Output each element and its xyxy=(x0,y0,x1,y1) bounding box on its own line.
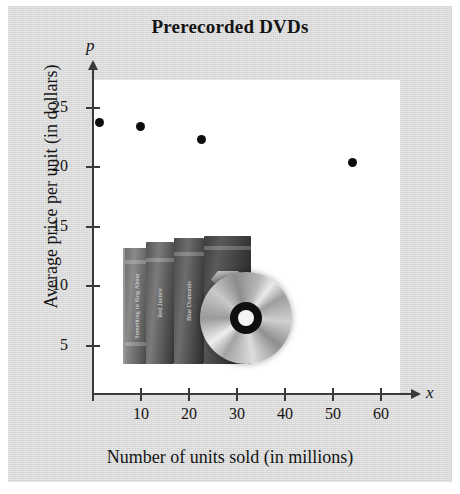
x-axis-tick xyxy=(380,388,382,401)
dvd-case: Something to Sing About xyxy=(123,248,148,364)
dvd-photo-inset: Something to Sing About Red Justice Blue… xyxy=(115,225,275,370)
x-axis-tick xyxy=(236,388,238,401)
y-axis-tick xyxy=(86,107,100,109)
y-axis-tick xyxy=(86,285,100,287)
x-axis-tick-label: 20 xyxy=(173,405,205,423)
y-axis-title: Average price per unit (in dollars) xyxy=(41,32,62,342)
data-point xyxy=(348,158,357,167)
dvd-disc-hub xyxy=(238,310,254,326)
y-axis-tick xyxy=(86,166,100,168)
chart-title: Prerecorded DVDs xyxy=(8,16,452,38)
x-axis-variable-label: x xyxy=(426,383,434,403)
x-axis-tick-label: 60 xyxy=(365,405,397,423)
x-axis-tick xyxy=(188,388,190,401)
x-axis-arrow-icon xyxy=(411,389,421,399)
x-axis-tick-label: 30 xyxy=(221,405,253,423)
chart-figure: Prerecorded DVDs Something to Sing About… xyxy=(8,6,452,482)
y-axis-line xyxy=(92,68,94,401)
y-axis-variable-label: p xyxy=(86,36,95,56)
dvd-case-title: Something to Sing About xyxy=(134,273,140,338)
data-point xyxy=(136,122,145,131)
x-axis-tick xyxy=(332,388,334,401)
dvd-case: Blue Diamonds xyxy=(174,238,204,364)
dvd-case: Red Justice xyxy=(146,242,174,364)
x-axis-tick-label: 50 xyxy=(317,405,349,423)
dvd-case-title: Red Justice xyxy=(157,288,163,318)
y-axis-arrow-icon xyxy=(88,60,98,70)
y-axis-tick xyxy=(86,345,100,347)
x-axis-tick xyxy=(284,388,286,401)
x-axis-tick-label: 40 xyxy=(269,405,301,423)
x-axis-title: Number of units sold (in millions) xyxy=(8,447,452,468)
dvd-case-title: Blue Diamonds xyxy=(186,281,192,321)
x-axis-tick-label: 10 xyxy=(125,405,157,423)
y-axis-tick xyxy=(86,226,100,228)
x-axis-tick xyxy=(140,388,142,401)
